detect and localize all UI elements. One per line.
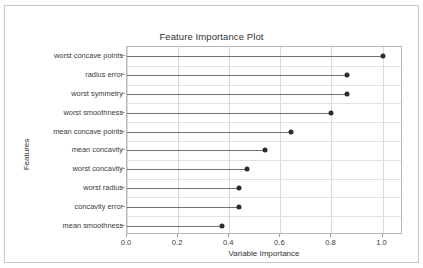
y-tick-label: worst radius — [11, 183, 123, 192]
lollipop-stem — [127, 188, 239, 189]
x-tick-label: 0.6 — [274, 238, 285, 247]
y-gridline — [127, 122, 401, 123]
lollipop-stem — [127, 150, 265, 151]
y-tick-mark — [121, 55, 125, 56]
y-gridline — [127, 141, 401, 142]
x-tick-label: 0.0 — [121, 238, 132, 247]
data-point-marker[interactable] — [237, 186, 242, 191]
y-gridline — [127, 85, 401, 86]
lollipop-stem — [127, 132, 291, 133]
notebook-output-cell: [12] plot_model(tuned_ridge, "feature") … — [4, 5, 419, 263]
chart-title: Feature Importance Plot — [5, 31, 418, 42]
y-gridline — [127, 197, 401, 198]
y-tick-mark — [121, 149, 125, 150]
x-tick-label: 1.0 — [376, 238, 387, 247]
y-gridline — [127, 160, 401, 161]
y-tick-label: radius error — [11, 70, 123, 79]
y-gridline — [127, 179, 401, 180]
x-tick-mark — [177, 234, 178, 237]
lollipop-stem — [127, 94, 347, 95]
x-tick-label: 0.8 — [325, 238, 336, 247]
y-axis-tick-labels: worst concave pointsradius errorworst sy… — [10, 46, 123, 234]
y-tick-label: worst smoothness — [11, 107, 123, 116]
y-gridline — [127, 216, 401, 217]
x-tick-label: 0.2 — [172, 238, 183, 247]
data-point-marker[interactable] — [344, 73, 349, 78]
y-tick-label: concavity error — [11, 201, 123, 210]
x-gridline — [383, 47, 384, 233]
y-tick-label: worst concavity — [11, 164, 123, 173]
x-tick-label: 0.4 — [223, 238, 234, 247]
x-tick-mark — [228, 234, 229, 237]
y-tick-mark — [121, 206, 125, 207]
x-tick-mark — [382, 234, 383, 237]
y-gridline — [127, 103, 401, 104]
x-tick-mark — [126, 234, 127, 237]
x-tick-mark — [279, 234, 280, 237]
y-tick-mark — [121, 93, 125, 94]
x-axis-title: Variable Importance — [126, 249, 402, 258]
y-tick-mark — [121, 168, 125, 169]
lollipop-stem — [127, 75, 347, 76]
data-point-marker[interactable] — [219, 223, 224, 228]
data-point-marker[interactable] — [344, 92, 349, 97]
lollipop-stem — [127, 113, 331, 114]
data-point-marker[interactable] — [380, 54, 385, 59]
feature-importance-figure: Feature Importance Plot Features worst c… — [5, 23, 418, 262]
lollipop-stem — [127, 56, 383, 57]
y-tick-label: worst symmetry — [11, 89, 123, 98]
data-point-marker[interactable] — [329, 110, 334, 115]
data-point-marker[interactable] — [245, 167, 250, 172]
y-tick-mark — [121, 225, 125, 226]
y-tick-label: mean smoothness — [11, 220, 123, 229]
data-point-marker[interactable] — [237, 204, 242, 209]
y-tick-mark — [121, 112, 125, 113]
lollipop-stem — [127, 207, 239, 208]
y-tick-mark — [121, 187, 125, 188]
lollipop-stem — [127, 226, 222, 227]
y-tick-mark — [121, 74, 125, 75]
plot-area — [126, 46, 402, 234]
y-tick-mark — [121, 131, 125, 132]
y-tick-label: mean concavity — [11, 145, 123, 154]
x-tick-mark — [330, 234, 331, 237]
data-point-marker[interactable] — [263, 148, 268, 153]
lollipop-stem — [127, 169, 247, 170]
y-tick-label: worst concave points — [11, 51, 123, 60]
data-point-marker[interactable] — [288, 129, 293, 134]
x-axis-tick-labels: 0.00.20.40.60.81.0 — [126, 234, 402, 250]
y-tick-label: mean concave points — [11, 126, 123, 135]
y-gridline — [127, 66, 401, 67]
code-input-line[interactable]: [12] plot_model(tuned_ridge, "feature") — [11, 10, 411, 23]
